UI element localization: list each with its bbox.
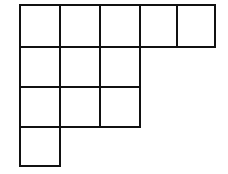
diagram-cell <box>19 4 61 48</box>
diagram-cell <box>59 86 101 128</box>
diagram-cell <box>59 4 101 48</box>
diagram-cell <box>19 126 61 167</box>
diagram-cell <box>19 86 61 128</box>
diagram-cell <box>19 46 61 88</box>
diagram-cell <box>99 46 141 88</box>
diagram-cell <box>139 4 178 48</box>
diagram-cell <box>176 4 216 48</box>
diagram-cell <box>99 86 141 128</box>
diagram-cell <box>59 46 101 88</box>
diagram-cell <box>99 4 141 48</box>
